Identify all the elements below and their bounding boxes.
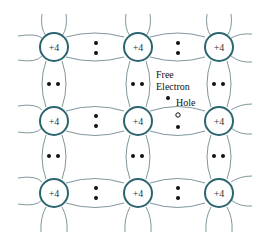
atom-label: +4: [49, 188, 60, 199]
free-electron-dot: [166, 96, 170, 100]
hole-annotation: Hole: [176, 97, 196, 117]
free-electron-annotation: Free Electron: [156, 69, 190, 100]
atom-r0c2: +4: [205, 33, 233, 61]
lattice-diagram: +4 +4 +4 +4 +4 +4 +4 +4 +4: [0, 0, 269, 244]
free-electron-label-line1: Free: [156, 69, 174, 80]
atom-r2c1: +4: [124, 179, 152, 207]
atom-r0c0: +4: [40, 33, 68, 61]
free-electron-label-line2: Electron: [156, 81, 190, 92]
hole-marker: [176, 113, 180, 117]
atom-label: +4: [214, 42, 225, 53]
hole-label: Hole: [176, 97, 196, 108]
atom-r1c2: +4: [205, 107, 233, 135]
atom-label: +4: [133, 116, 144, 127]
atom-label: +4: [214, 116, 225, 127]
atom-r0c1: +4: [124, 33, 152, 61]
atom-label: +4: [133, 188, 144, 199]
atom-r2c0: +4: [40, 179, 68, 207]
atom-r1c0: +4: [40, 107, 68, 135]
atom-label: +4: [49, 42, 60, 53]
atom-label: +4: [214, 188, 225, 199]
atom-r2c2: +4: [205, 179, 233, 207]
atom-r1c1: +4: [124, 107, 152, 135]
bond-electron-remaining: [176, 125, 180, 129]
atom-label: +4: [133, 42, 144, 53]
atom-label: +4: [49, 116, 60, 127]
